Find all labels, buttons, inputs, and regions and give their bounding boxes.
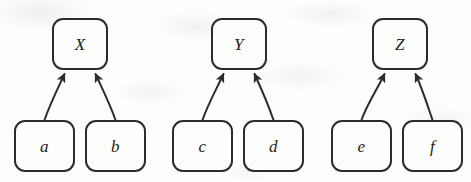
diagram-canvas: X Y Z a b c d e f xyxy=(0,0,471,182)
node-label-e: e xyxy=(358,138,366,155)
edge-f-to-Z xyxy=(416,74,433,120)
node-Y[interactable]: Y xyxy=(211,18,267,70)
node-label-a: a xyxy=(40,138,49,155)
node-Z[interactable]: Z xyxy=(372,18,428,70)
node-label-X: X xyxy=(75,36,86,53)
node-b[interactable]: b xyxy=(85,120,146,172)
edge-b-to-X xyxy=(96,74,116,120)
node-a[interactable]: a xyxy=(14,120,75,172)
node-label-f: f xyxy=(430,138,435,155)
edge-c-to-Y xyxy=(203,74,224,120)
node-label-b: b xyxy=(111,138,120,155)
node-e[interactable]: e xyxy=(331,120,392,172)
edge-a-to-X xyxy=(45,74,65,120)
node-d[interactable]: d xyxy=(243,120,304,172)
node-c[interactable]: c xyxy=(172,120,233,172)
node-label-Z: Z xyxy=(395,36,405,53)
edge-e-to-Z xyxy=(362,74,385,120)
node-label-d: d xyxy=(269,138,278,155)
node-X[interactable]: X xyxy=(52,18,108,70)
node-label-Y: Y xyxy=(234,36,244,53)
node-f[interactable]: f xyxy=(402,120,463,172)
node-label-c: c xyxy=(199,138,207,155)
edge-d-to-Y xyxy=(255,74,274,120)
